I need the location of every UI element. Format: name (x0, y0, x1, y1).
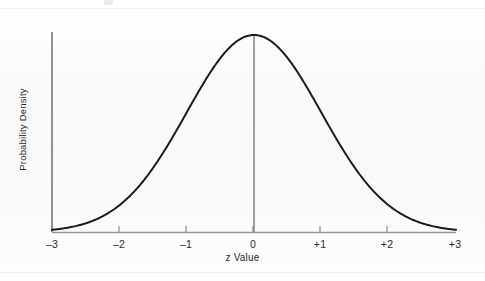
x-tick-label-0: 0 (233, 238, 273, 250)
x-tick-label--2: –2 (99, 238, 139, 250)
x-tick-label--1: –1 (166, 238, 206, 250)
x-axis-title: z Value (0, 252, 485, 263)
x-tick-label-plus1: +1 (300, 238, 340, 250)
x-tick-label-plus2: +2 (367, 238, 407, 250)
x-axis-ticks (119, 226, 387, 232)
normal-distribution-figure: –3 –2 –1 0 +1 +2 +3 z Value Probability … (0, 0, 485, 281)
x-tick-label--3: –3 (32, 238, 72, 250)
y-axis-title: Probability Density (17, 70, 28, 190)
x-tick-label-plus3: +3 (435, 238, 475, 250)
